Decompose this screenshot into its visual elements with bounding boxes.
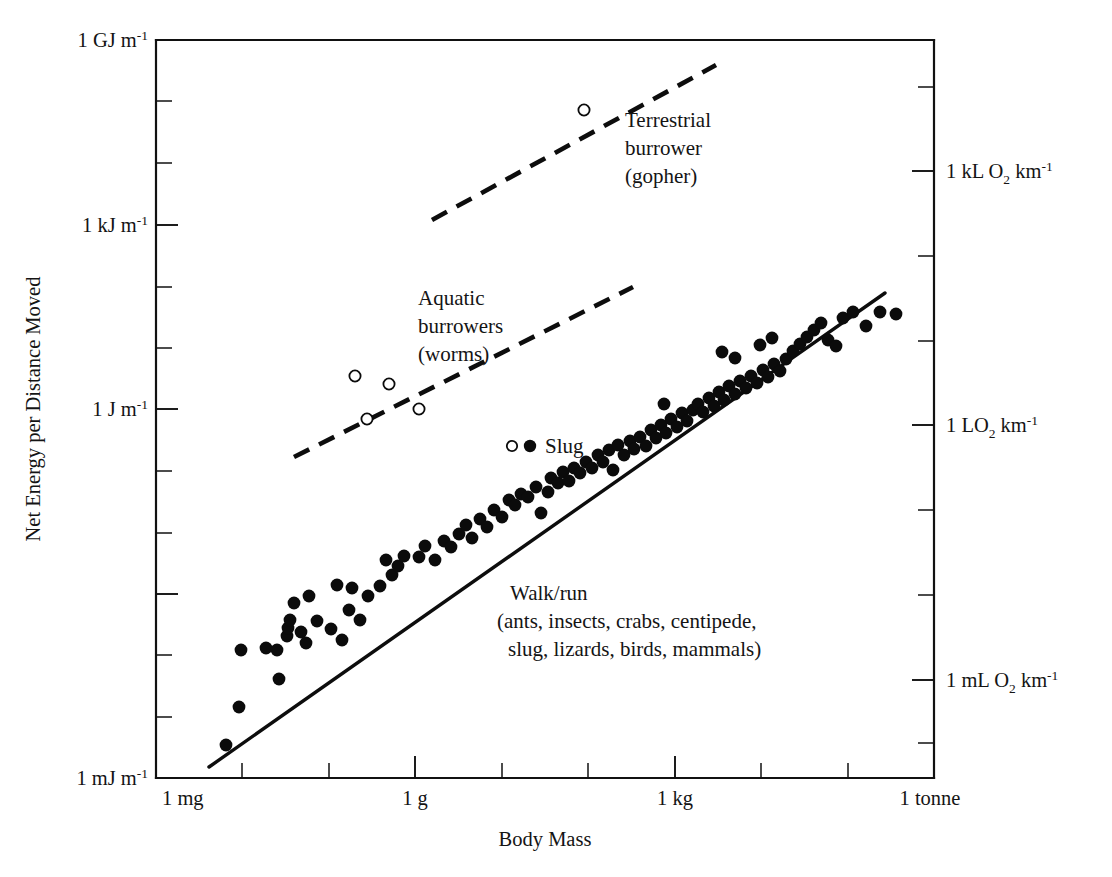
data-point (563, 475, 576, 488)
data-point (496, 511, 509, 524)
data-point (374, 580, 387, 593)
data-point (354, 614, 367, 627)
annotation-walkrun-line-3: slug, lizards, birds, mammals) (508, 637, 761, 661)
data-point (273, 673, 286, 686)
data-point (716, 346, 729, 359)
data-point (697, 406, 710, 419)
x-tick-label-kg: 1 kg (657, 787, 693, 810)
y2-tick-label-ml: 1 mL O2 km-1 (946, 668, 1058, 696)
annotation-terrestrial-line-2: burrower (625, 136, 702, 160)
data-point (574, 467, 587, 480)
data-point (542, 486, 555, 499)
y-axis-right-ticks (912, 87, 934, 743)
x-tick-label-g: 1 g (402, 787, 428, 810)
data-point (349, 370, 360, 381)
x-axis-title: Body Mass (499, 828, 592, 851)
x-tick-label-tonne: 1 tonne (900, 787, 961, 809)
data-point (552, 477, 565, 490)
y-tick-label-j: 1 J m-1 (92, 397, 148, 420)
data-point (754, 339, 767, 352)
plot-frame (156, 40, 934, 778)
data-point (398, 550, 411, 563)
y-axis-right-labels: 1 kL O2 km-1 1 LO2 km-1 1 mL O2 km-1 (946, 159, 1058, 696)
data-point (233, 701, 246, 714)
data-point (295, 626, 308, 639)
data-point (413, 403, 424, 414)
data-point (681, 415, 694, 428)
y-tick-label-kj: 1 kJ m-1 (82, 213, 148, 236)
data-point (271, 644, 284, 657)
data-point (607, 464, 620, 477)
dashed-line-aquatic-burrowers (294, 287, 633, 457)
annotation-walk-run: Walk/run (ants, insects, crabs, centiped… (497, 581, 761, 661)
y-axis-left-labels: 1 GJ m-1 1 kJ m-1 1 J m-1 1 mJ m-1 (76, 28, 148, 789)
data-point (578, 104, 589, 115)
x-tick-label-mg: 1 mg (162, 787, 204, 810)
data-point (874, 306, 887, 319)
data-point (535, 507, 548, 520)
data-point (362, 590, 375, 603)
y2-tick-label-kl: 1 kL O2 km-1 (946, 159, 1053, 187)
data-points-aquatic-burrowers (349, 370, 424, 424)
data-point (460, 519, 473, 532)
slug-open-circle-marker (507, 441, 517, 451)
data-point (380, 554, 393, 567)
chart-svg: 1 GJ m-1 1 kJ m-1 1 J m-1 1 mJ m-1 Net E… (0, 0, 1112, 877)
annotation-aquatic-line-1: Aquatic (418, 286, 484, 310)
y-tick-label-gj: 1 GJ m-1 (78, 28, 148, 51)
data-point (481, 521, 494, 534)
data-point (660, 427, 673, 440)
data-point (445, 541, 458, 554)
data-point (890, 308, 903, 321)
x-axis-ticks (156, 756, 934, 778)
y-axis-left-ticks (156, 40, 178, 778)
data-point (343, 604, 356, 617)
data-point (429, 554, 442, 567)
data-point (597, 456, 610, 469)
data-point (466, 532, 479, 545)
data-point (729, 388, 742, 401)
data-point (419, 540, 432, 553)
annotation-slug: Slug (507, 434, 584, 458)
y2-tick-label-l: 1 LO2 km-1 (946, 413, 1038, 441)
data-point (658, 398, 671, 411)
data-point (336, 634, 349, 647)
data-point (586, 462, 599, 475)
annotation-terrestrial-line-1: Terrestrial (625, 108, 711, 132)
data-point (220, 739, 233, 752)
annotation-aquatic-line-3: (worms) (418, 342, 489, 366)
annotation-aquatic-line-2: burrowers (418, 314, 503, 338)
data-point (815, 317, 828, 330)
data-points-walk-run (220, 306, 903, 752)
data-point (847, 306, 860, 319)
y-tick-label-mj: 1 mJ m-1 (76, 766, 148, 789)
data-point (509, 499, 522, 512)
slug-filled-circle-marker (524, 440, 536, 452)
data-point (774, 365, 787, 378)
data-point (300, 637, 313, 650)
data-point (751, 377, 764, 390)
data-point (530, 481, 543, 494)
y-axis-title: Net Energy per Distance Moved (22, 277, 45, 542)
data-point (718, 394, 731, 407)
data-point (303, 590, 316, 603)
data-point (331, 579, 344, 592)
data-point (640, 440, 653, 453)
data-point (860, 320, 873, 333)
data-point (235, 644, 248, 657)
annotation-aquatic-burrowers: Aquatic burrowers (worms) (418, 286, 503, 366)
annotation-terrestrial-burrower: Terrestrial burrower (gopher) (625, 108, 711, 188)
data-point (383, 378, 394, 389)
data-point (522, 491, 535, 504)
data-point (830, 340, 843, 353)
data-point (361, 413, 372, 424)
data-points-terrestrial-burrower (578, 104, 589, 115)
figure-root: 1 GJ m-1 1 kJ m-1 1 J m-1 1 mJ m-1 Net E… (0, 0, 1112, 877)
data-point (628, 443, 641, 456)
annotation-walkrun-line-1: Walk/run (510, 581, 588, 605)
data-point (413, 551, 426, 564)
data-point (766, 332, 779, 345)
data-point (260, 642, 273, 655)
annotation-walkrun-line-2: (ants, insects, crabs, centipede, (497, 609, 757, 633)
data-point (311, 615, 324, 628)
